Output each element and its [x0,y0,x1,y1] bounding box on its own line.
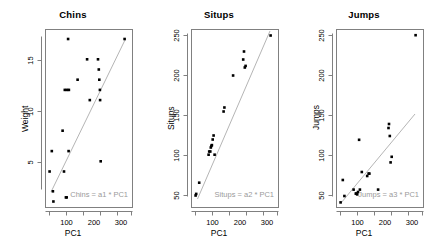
ytick-label: 15 [26,56,35,64]
ytick-label: 5 [26,160,35,164]
xtick-label: 100 [60,218,73,227]
xtick-label: 300 [406,218,419,227]
y-axis-ticks-chins [38,37,42,190]
ytick-label: 200 [172,69,181,82]
panel-chins: Chins 100 200 300 [0,0,146,251]
y-axis-ticks-jumps [329,34,333,197]
x-axis-title-chins: PC1 [0,228,146,238]
xtick-label: 300 [261,218,274,227]
xtick-label: 200 [379,218,392,227]
y-axis-ticks-situps [184,34,188,197]
annotation-chins: Chins = a1 * PC1 [70,190,128,199]
y-axis-title-chins: Weight [20,106,30,132]
x-axis-title-jumps: PC1 [291,228,437,238]
regression-line-chins [51,40,125,192]
plot-box-jumps [337,30,424,208]
xtick-label: 300 [115,218,128,227]
ytick-label: 50 [317,191,326,199]
panel-situps: Situps 100 200 300 [146,0,292,251]
x-axis-ticks-jumps [337,212,424,216]
annotation-situps: Situps = a2 * PC1 [215,190,274,199]
ytick-label: 50 [172,191,181,199]
regression-line-situps [198,31,271,199]
y-axis-title-jumps: Jumps [311,105,321,130]
xtick-label: 200 [234,218,247,227]
x-axis-ticks-chins [46,208,133,216]
data-points-jumps [339,34,417,204]
ytick-label: 100 [172,149,181,162]
x-axis-ticks-situps [192,212,279,216]
panel-jumps: Jumps 100 200 300 [291,0,437,251]
ytick-label: 200 [317,69,326,82]
xtick-label: 100 [206,218,219,227]
xtick-label: 100 [351,218,364,227]
x-axis-title-situps: PC1 [146,228,292,238]
plot-box-situps [192,30,279,208]
xtick-label: 200 [88,218,101,227]
ytick-label: 250 [172,29,181,42]
annotation-jumps: Jumps = a3 * PC1 [358,190,419,199]
ytick-label: 250 [317,29,326,42]
scatter-plot-figure: Chins 100 200 300 [0,0,437,251]
ytick-label: 100 [317,149,326,162]
plot-box-chins [46,30,133,208]
y-axis-title-situps: Situps [166,106,176,130]
